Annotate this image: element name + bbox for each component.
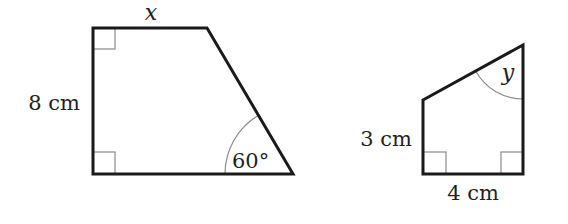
angle-arc-y bbox=[476, 71, 523, 99]
right-angle-marker-bottom-left bbox=[93, 152, 115, 174]
diagram-canvas: x 8 cm 60° y 3 cm 4 cm bbox=[0, 0, 568, 224]
label-3cm: 3 cm bbox=[360, 127, 412, 151]
right-trapezium-figure: y 3 cm 4 cm bbox=[360, 45, 523, 205]
right-angle-marker-top-left bbox=[93, 28, 115, 49]
label-4cm: 4 cm bbox=[447, 181, 499, 205]
label-y: y bbox=[501, 60, 515, 85]
label-x: x bbox=[145, 0, 158, 25]
right-angle-marker-bottom-left bbox=[423, 152, 446, 174]
label-8cm: 8 cm bbox=[28, 91, 80, 115]
trapezium-figure: x 8 cm 60° bbox=[28, 0, 293, 174]
right-angle-marker-bottom-right bbox=[501, 152, 523, 174]
label-60-degrees: 60° bbox=[232, 149, 269, 173]
